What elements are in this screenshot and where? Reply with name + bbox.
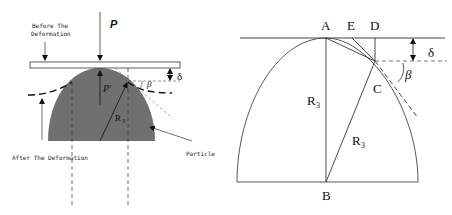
particle-arch [237,38,418,182]
point-c-label: C [373,81,382,96]
before-deformation-label-line1: Before The [32,22,69,29]
point-e-label: E [347,18,355,33]
delta-label: δ [177,70,182,82]
particle-label: Particle [186,150,215,157]
line-ec [352,38,375,61]
beta-label-right: β [404,67,412,82]
point-d-label: D [370,18,379,33]
radius-subscript-ab: 3 [316,101,320,110]
radius-subscript-bc: 3 [361,141,365,150]
before-deformation-label-line2: Deformation [31,30,71,37]
beta-arc [140,81,142,89]
contact-deformation-diagram: P P' Before The Deformation After The De… [0,0,452,215]
beta-label: β [146,79,152,89]
reaction-p-prime-label: P' [102,83,112,94]
beta-arc-right [398,63,404,82]
particle-shape [48,68,155,141]
line-ac [326,38,375,61]
radius-label-ab: R [307,93,316,108]
particle-pointer-arrow [150,127,192,141]
loading-plate [30,62,180,68]
radius-label: R [115,113,121,123]
radius-label-bc: R [352,133,361,148]
delta-label-right: δ [428,45,434,60]
radius-subscript: 3 [122,118,125,124]
force-p-label: P [110,18,118,30]
line-bc [326,61,375,182]
left-figure: P P' Before The Deformation After The De… [12,12,215,205]
point-a-label: A [321,18,331,33]
after-deformation-label: After The Deformation [12,154,88,161]
right-figure: δ β A E D C B R 3 R 3 [237,18,447,203]
point-b-label: B [322,188,331,203]
